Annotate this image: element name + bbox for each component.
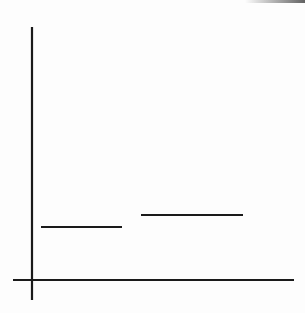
diagram-canvas: [0, 0, 305, 313]
